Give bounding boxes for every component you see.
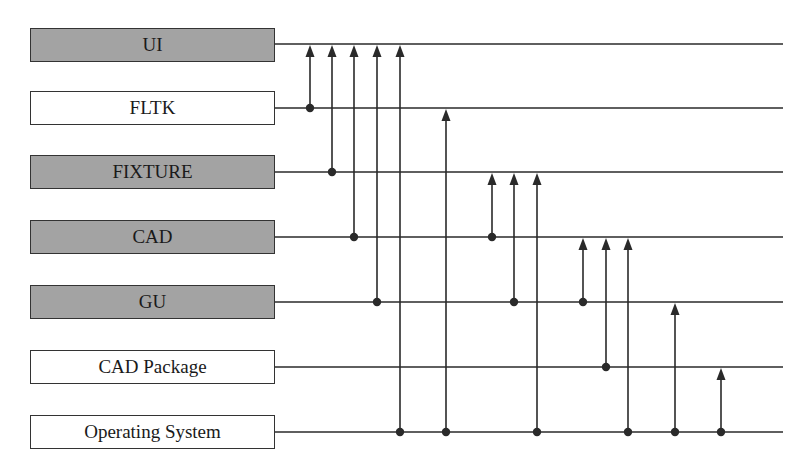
layer-label-gu: GU xyxy=(139,291,166,313)
layer-label-operating-system: Operating System xyxy=(84,421,221,443)
junction-dot-icon xyxy=(373,298,381,306)
arrowhead-icon xyxy=(306,45,315,57)
layer-box-operating-system: Operating System xyxy=(30,415,275,449)
arrowhead-icon xyxy=(510,173,519,185)
arrowhead-icon xyxy=(373,45,382,57)
arrowhead-icon xyxy=(624,238,633,250)
arrowhead-icon xyxy=(717,368,726,380)
junction-dot-icon xyxy=(396,428,404,436)
arrowhead-icon xyxy=(579,238,588,250)
layer-label-cad: CAD xyxy=(132,226,172,248)
arrowhead-icon xyxy=(533,173,542,185)
arrowhead-icon xyxy=(488,173,497,185)
junction-dot-icon xyxy=(624,428,632,436)
arrowhead-icon xyxy=(671,303,680,315)
layer-label-fixture: FIXTURE xyxy=(112,161,192,183)
arrowhead-icon xyxy=(350,45,359,57)
arrowhead-icon xyxy=(442,109,451,121)
layer-box-ui: UI xyxy=(30,28,275,62)
junction-dot-icon xyxy=(533,428,541,436)
layer-box-gu: GU xyxy=(30,285,275,319)
junction-dot-icon xyxy=(717,428,725,436)
arrowhead-icon xyxy=(396,45,405,57)
junction-dot-icon xyxy=(579,298,587,306)
junction-dot-icon xyxy=(671,428,679,436)
arrowhead-icon xyxy=(328,45,337,57)
junction-dot-icon xyxy=(602,363,610,371)
layer-box-cad-package: CAD Package xyxy=(30,350,275,384)
junction-dot-icon xyxy=(306,104,314,112)
junction-dot-icon xyxy=(328,168,336,176)
layer-box-fixture: FIXTURE xyxy=(30,155,275,189)
arrowhead-icon xyxy=(602,238,611,250)
junction-dot-icon xyxy=(510,298,518,306)
layer-dependency-diagram: UI FLTK FIXTURE CAD GU CAD Package Opera… xyxy=(0,0,805,470)
junction-dot-icon xyxy=(488,233,496,241)
layer-box-cad: CAD xyxy=(30,220,275,254)
junction-dot-icon xyxy=(442,428,450,436)
junction-dot-icon xyxy=(350,233,358,241)
layer-label-ui: UI xyxy=(142,34,162,56)
layer-box-fltk: FLTK xyxy=(30,91,275,125)
layer-label-fltk: FLTK xyxy=(130,97,176,119)
layer-label-cad-package: CAD Package xyxy=(98,356,206,378)
